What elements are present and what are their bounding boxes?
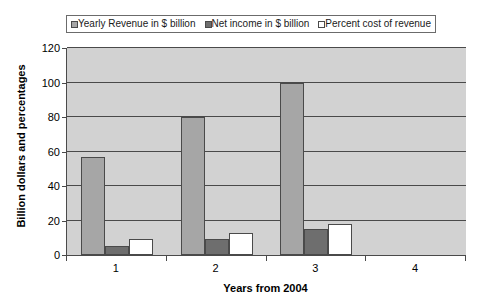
chart-legend: Yearly Revenue in $ billion Net income i… — [66, 15, 436, 33]
y-tick-label: 0 — [32, 250, 60, 261]
bar — [205, 239, 229, 255]
y-tick-label: 20 — [32, 216, 60, 227]
bar-group — [280, 48, 352, 255]
bar — [280, 83, 304, 256]
legend-label-pctcost: Percent cost of revenue — [325, 19, 431, 29]
legend-label-revenue: Yearly Revenue in $ billion — [78, 19, 196, 29]
x-tick-mark — [66, 256, 67, 261]
chart-title — [0, 0, 484, 5]
x-tick-mark — [465, 256, 466, 261]
y-tick-label: 120 — [32, 43, 60, 54]
bar — [304, 229, 328, 255]
bar — [181, 117, 205, 255]
bar — [328, 224, 352, 255]
bar — [105, 246, 129, 255]
x-tick-mark — [365, 256, 366, 261]
legend-swatch-pctcost-icon — [318, 21, 325, 28]
plot-area — [66, 48, 466, 256]
bar-group — [81, 48, 153, 255]
bar — [81, 157, 105, 255]
bar-group — [380, 48, 452, 255]
legend-label-netincome: Net income in $ billion — [212, 19, 310, 29]
x-tick-mark — [166, 256, 167, 261]
x-tick-label: 3 — [295, 263, 335, 274]
x-tick-label: 2 — [196, 263, 236, 274]
y-axis-title: Billion dollars and percentages — [15, 41, 27, 251]
y-tick-label: 60 — [32, 147, 60, 158]
bar-group — [181, 48, 253, 255]
x-tick-mark — [266, 256, 267, 261]
legend-item-netincome: Net income in $ billion — [205, 19, 310, 29]
y-tick-label: 40 — [32, 181, 60, 192]
x-tick-label: 4 — [395, 263, 435, 274]
legend-item-pctcost: Percent cost of revenue — [318, 19, 431, 29]
y-tick-label: 100 — [32, 78, 60, 89]
bar — [229, 233, 253, 255]
legend-swatch-netincome-icon — [205, 21, 212, 28]
bar-chart: Yearly Revenue in $ billion Net income i… — [0, 0, 484, 308]
legend-item-revenue: Yearly Revenue in $ billion — [71, 19, 196, 29]
bar — [129, 239, 153, 255]
y-tick-label: 80 — [32, 112, 60, 123]
x-axis-title: Years from 2004 — [66, 282, 465, 294]
x-tick-label: 1 — [96, 263, 136, 274]
legend-swatch-revenue-icon — [71, 21, 78, 28]
